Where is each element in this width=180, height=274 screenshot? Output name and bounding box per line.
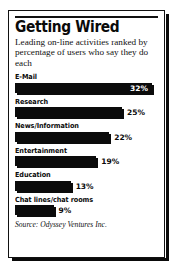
bar-track: 32% xyxy=(15,83,158,94)
bar-fill xyxy=(15,181,71,191)
bar-track: 22% xyxy=(15,132,158,143)
bar-category-label: Entertainment xyxy=(15,147,148,155)
bar-row: Entertainment19% xyxy=(15,147,158,168)
bar-fill xyxy=(15,107,122,117)
bar-category-label: Education xyxy=(15,171,148,179)
infographic-card: Getting Wired Leading on-line activities… xyxy=(8,10,165,258)
bar-category-label: News/Information xyxy=(15,122,148,130)
bar-value-label: 25% xyxy=(127,108,145,117)
bar-category-label: E-Mail xyxy=(15,73,148,81)
bar-row: Research25% xyxy=(15,98,158,119)
bar-fill xyxy=(15,156,96,166)
frame-shadow-bottom xyxy=(12,258,169,261)
bar-value-label: 32% xyxy=(130,84,148,93)
bar-row: Education13% xyxy=(15,171,158,192)
source-text: Source: Odyssey Ventures Inc. xyxy=(15,220,158,229)
bar-value-label: 19% xyxy=(101,157,119,166)
bar-value-label: 9% xyxy=(59,206,72,215)
bar-chart: E-Mail32%Research25%News/Information22%E… xyxy=(15,73,158,216)
bar-category-label: Chat lines/chat rooms xyxy=(15,196,148,204)
bar-fill xyxy=(15,132,109,142)
subtitle-text: Leading on-line activities ranked by per… xyxy=(15,37,158,68)
bar-row: E-Mail32% xyxy=(15,73,158,94)
bar-row: Chat lines/chat rooms9% xyxy=(15,196,158,217)
page-title: Getting Wired xyxy=(15,20,147,35)
bar-track: 9% xyxy=(15,205,158,216)
bar-row: News/Information22% xyxy=(15,122,158,143)
bar-value-label: 22% xyxy=(114,133,132,142)
bar-track: 13% xyxy=(15,181,158,192)
bar-fill xyxy=(15,205,54,215)
bar-value-label: 13% xyxy=(76,182,94,191)
bar-category-label: Research xyxy=(15,98,148,106)
bar-track: 25% xyxy=(15,107,158,118)
frame-shadow-right xyxy=(166,14,169,261)
bar-track: 19% xyxy=(15,156,158,167)
